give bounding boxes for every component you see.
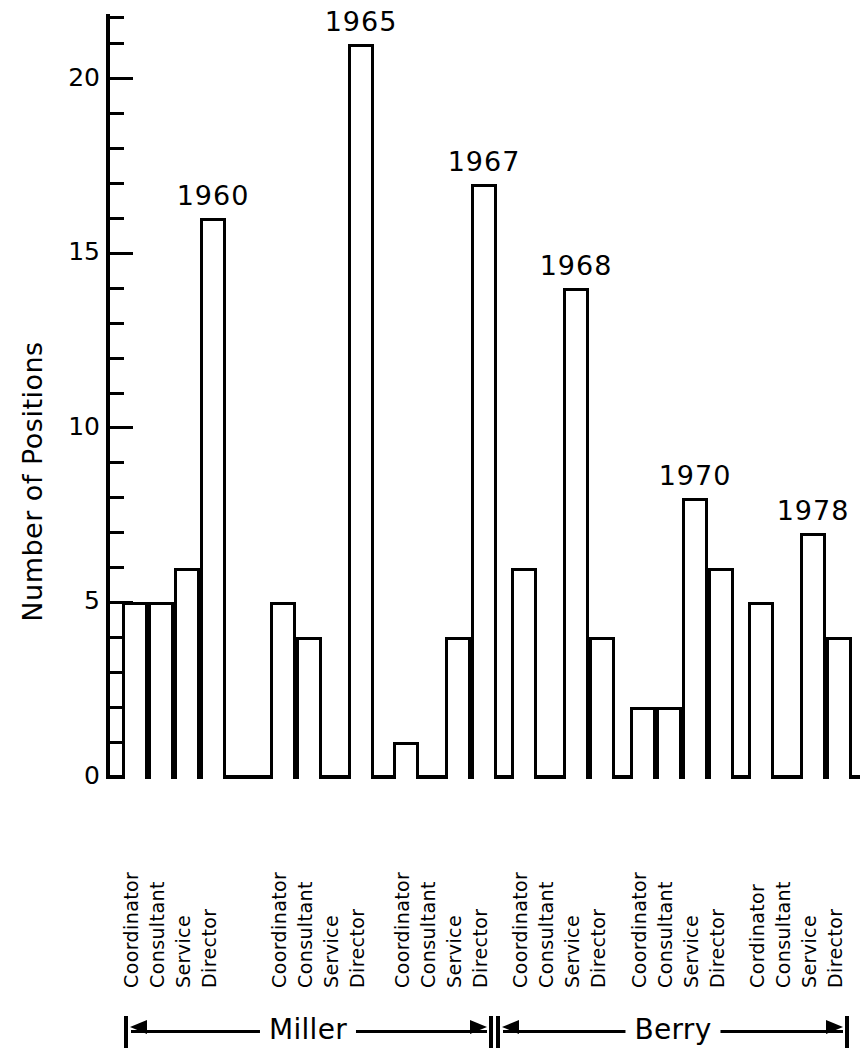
category-label-1960-consultant: Consultant	[146, 881, 168, 988]
y-tick-6	[110, 566, 124, 569]
bar-1970-service	[682, 498, 708, 779]
y-tick-14	[110, 287, 124, 290]
bar-1965-coordinator	[270, 602, 296, 779]
arrow-right-miller	[470, 1020, 487, 1034]
bar-1978-service	[800, 533, 826, 779]
category-label-1967-coordinator: Coordinator	[391, 872, 413, 988]
span-label-berry: Berry	[625, 1013, 720, 1046]
y-axis-line	[106, 14, 110, 779]
span-end-left-berry	[496, 1016, 500, 1048]
year-caption-1965: 1965	[325, 6, 398, 37]
category-label-1970-consultant: Consultant	[654, 881, 676, 988]
y-tick-7	[110, 531, 124, 534]
category-label-1978-cordinator: Cordinator	[746, 884, 768, 988]
y-tick-15	[110, 252, 133, 255]
y-tick-13	[110, 322, 124, 325]
category-label-1967-service: Service	[443, 915, 465, 988]
y-axis-title: Number of Positions	[17, 272, 48, 692]
category-label-1965-coordinator: Coordinator	[268, 872, 290, 988]
year-caption-1967: 1967	[448, 146, 521, 177]
y-tick-19	[110, 112, 124, 115]
bar-1970-coordinator	[630, 707, 656, 779]
category-label-1967-consultant: Consultant	[417, 881, 439, 988]
category-label-1960-service: Service	[172, 915, 194, 988]
category-label-1970-coordinator: Coordinator	[628, 872, 650, 988]
y-tick-label-0: 0	[40, 763, 100, 788]
year-caption-1978: 1978	[777, 495, 850, 526]
category-label-1968-consultant: Consultant	[535, 881, 557, 988]
y-tick-label-20: 20	[40, 65, 100, 90]
arrow-right-berry	[826, 1020, 843, 1034]
y-tick-17	[110, 182, 124, 185]
category-label-1970-service: Service	[680, 915, 702, 988]
bar-1978-cordinator	[748, 602, 774, 779]
bar-1967-service	[445, 637, 471, 779]
y-tick-label-10: 10	[40, 414, 100, 439]
category-label-1965-director: Director	[346, 908, 368, 988]
bar-1960-coordinator	[122, 602, 148, 779]
year-caption-1960: 1960	[177, 180, 250, 211]
category-label-1968-service: Service	[561, 915, 583, 988]
span-end-right-miller	[489, 1016, 493, 1048]
y-tick-21	[110, 42, 124, 45]
y-tick-11	[110, 392, 124, 395]
span-end-right-berry	[845, 1016, 849, 1048]
y-tick-label-5: 5	[40, 588, 100, 613]
category-label-1978-director: Director	[824, 908, 846, 988]
y-tick-10	[110, 426, 133, 429]
span-label-miller: Miller	[260, 1013, 356, 1046]
bar-1970-director	[708, 568, 734, 779]
y-tick-label-15: 15	[40, 239, 100, 264]
bar-1965-director	[348, 44, 374, 779]
category-label-1968-director: Director	[587, 908, 609, 988]
bar-1968-director	[589, 637, 615, 779]
bar-1960-director	[200, 218, 226, 779]
y-tick-9	[110, 461, 124, 464]
bar-1967-coordinator	[393, 742, 419, 779]
category-label-1978-service: Service	[798, 915, 820, 988]
bar-1970-consultant	[656, 707, 682, 779]
category-label-1960-coordinator: Coordinator	[120, 872, 142, 988]
bar-1960-consultant	[148, 602, 174, 779]
y-axis-cap	[110, 16, 124, 19]
category-label-1968-coordinator: Coordinator	[509, 872, 531, 988]
y-tick-16	[110, 217, 124, 220]
span-end-left-miller	[124, 1016, 128, 1048]
category-label-1970-director: Director	[706, 908, 728, 988]
category-label-1965-service: Service	[320, 915, 342, 988]
y-tick-8	[110, 496, 124, 499]
y-tick-12	[110, 357, 124, 360]
bar-1978-director	[826, 637, 852, 779]
year-caption-1970: 1970	[659, 460, 732, 491]
year-caption-1968: 1968	[540, 250, 613, 281]
y-tick-18	[110, 147, 124, 150]
bar-1968-service	[563, 288, 589, 779]
bar-1965-consultant	[296, 637, 322, 779]
category-label-1978-consultant: Consultant	[772, 881, 794, 988]
bar-1967-director	[471, 184, 497, 779]
y-tick-20	[110, 77, 133, 80]
category-label-1967-director: Director	[469, 908, 491, 988]
bar-1968-coordinator	[511, 568, 537, 779]
category-label-1965-consultant: Consultant	[294, 881, 316, 988]
category-label-1960-director: Director	[198, 908, 220, 988]
bar-chart-figure: Number of Positions 05101520 19601965196…	[0, 0, 867, 1057]
bar-1960-service	[174, 568, 200, 779]
